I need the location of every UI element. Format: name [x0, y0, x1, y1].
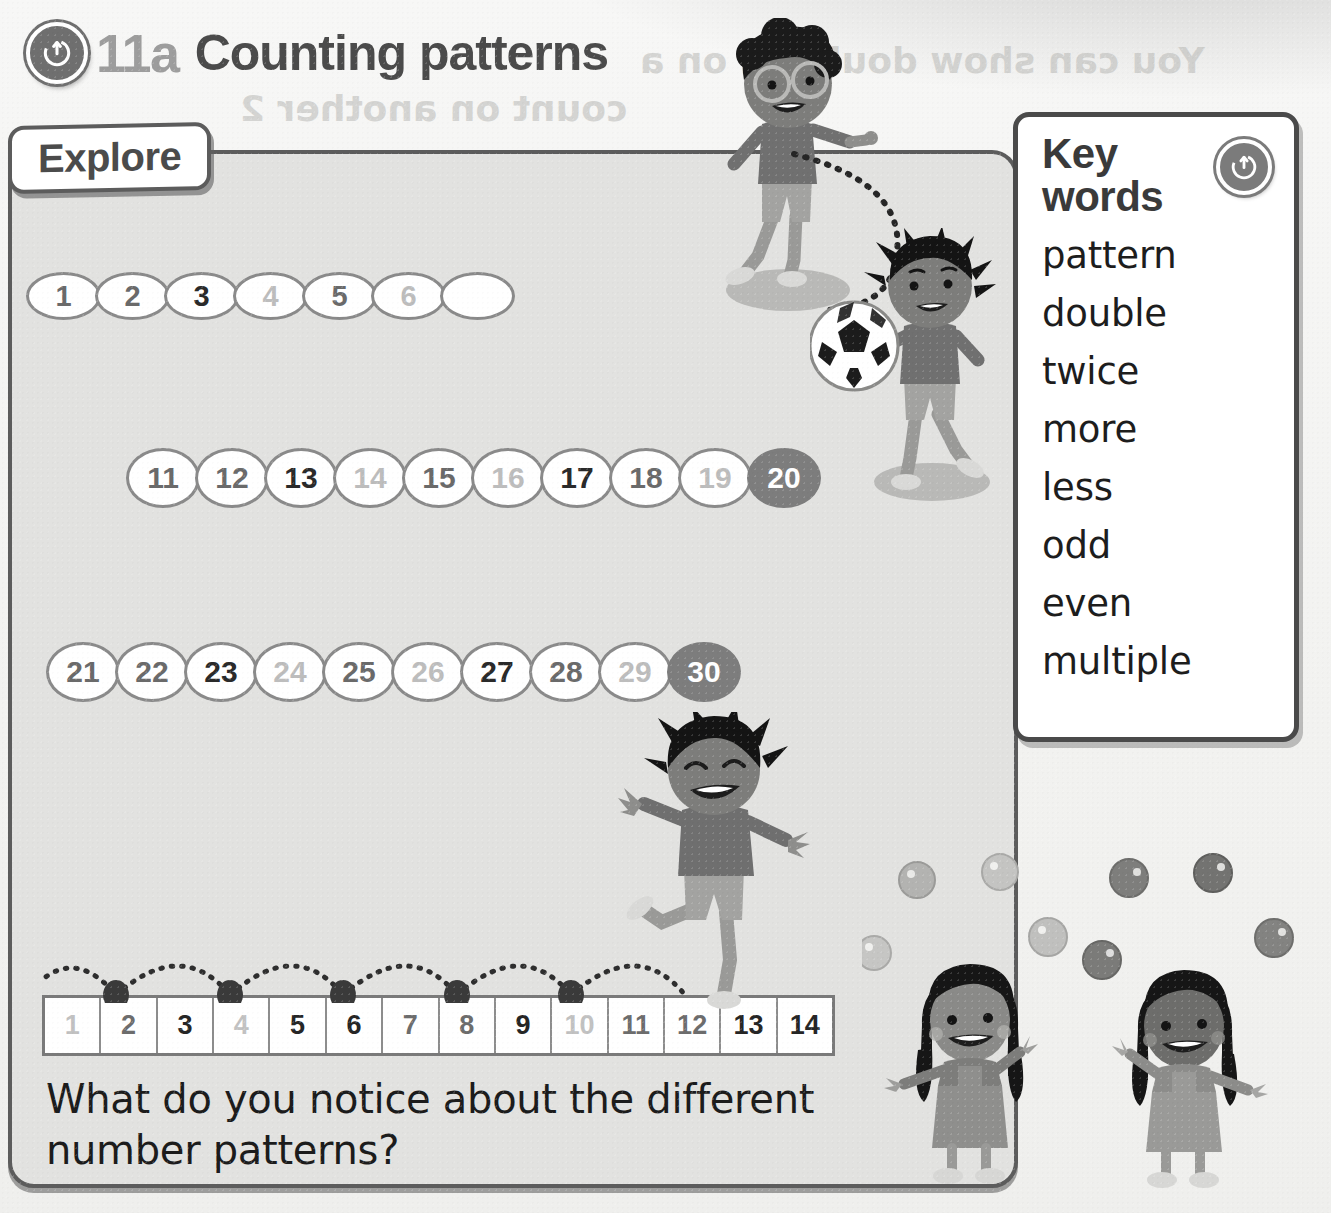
number-oval[interactable]: 6	[371, 272, 446, 320]
number-oval[interactable]: 28	[529, 642, 603, 702]
number-oval[interactable]: 11	[126, 448, 200, 508]
number-line-cell[interactable]: 14	[778, 998, 832, 1053]
number-oval[interactable]: 17	[540, 448, 614, 508]
show-through-line: count on another 2	[240, 88, 627, 129]
key-word-item: twice	[1042, 343, 1294, 401]
number-row-21-30: 21222324252627282930	[46, 642, 736, 702]
number-oval[interactable]: 21	[46, 642, 120, 702]
number-line-cell[interactable]: 11	[609, 998, 665, 1053]
number-line-cell[interactable]: 9	[496, 998, 552, 1053]
number-line-cell[interactable]: 12	[665, 998, 721, 1053]
explore-tab[interactable]: Explore	[8, 122, 211, 194]
girl-juggling-right	[1112, 970, 1268, 1188]
key-word-item: less	[1042, 459, 1294, 517]
number-oval[interactable]: 25	[322, 642, 396, 702]
number-oval[interactable]: 24	[253, 642, 327, 702]
number-oval[interactable]: 3	[164, 272, 239, 320]
number-line-cell[interactable]: 10	[552, 998, 608, 1053]
number-oval[interactable]: 29	[598, 642, 672, 702]
number-oval[interactable]: 27	[460, 642, 534, 702]
number-oval[interactable]: 22	[115, 642, 189, 702]
key-words-box: Key words patterndoubletwicemorelessodde…	[1013, 112, 1299, 742]
number-oval[interactable]: 1	[26, 272, 101, 320]
number-oval[interactable]: 23	[184, 642, 258, 702]
key-words-list: patterndoubletwicemorelessoddevenmultipl…	[1042, 227, 1294, 692]
key-word-item: multiple	[1042, 633, 1294, 691]
number-oval[interactable]: 12	[195, 448, 269, 508]
number-line-cell[interactable]: 6	[327, 998, 383, 1053]
show-through-line: You can show doubling on a	[640, 40, 1205, 81]
number-line-cell[interactable]: 5	[270, 998, 326, 1053]
number-line-cell[interactable]: 1	[45, 998, 101, 1053]
key-word-item: odd	[1042, 517, 1294, 575]
textbook-page: You can show doubling on acount on anoth…	[0, 0, 1331, 1213]
number-oval[interactable]: 19	[678, 448, 752, 508]
number-oval[interactable]: 4	[233, 272, 308, 320]
number-line-group: 1234567891011121314	[42, 995, 835, 1056]
power-up-icon	[1216, 139, 1272, 195]
key-word-item: double	[1042, 285, 1294, 343]
number-oval[interactable]: 30	[667, 642, 741, 702]
key-words-title: Key words	[1042, 133, 1202, 219]
number-line-cell[interactable]: 2	[101, 998, 157, 1053]
number-line-cell[interactable]: 3	[158, 998, 214, 1053]
number-oval[interactable]: 18	[609, 448, 683, 508]
number-oval-empty[interactable]	[440, 272, 515, 320]
number-line: 1234567891011121314	[42, 995, 835, 1056]
key-word-item: even	[1042, 575, 1294, 633]
number-row-11-20: 11121314151617181920	[126, 448, 816, 508]
number-oval[interactable]: 16	[471, 448, 545, 508]
page-header: 11a Counting patterns	[26, 22, 608, 84]
page-title: Counting patterns	[195, 28, 609, 78]
key-word-item: pattern	[1042, 227, 1294, 285]
number-row-1-6: 123456	[26, 272, 509, 320]
power-up-icon	[26, 22, 88, 84]
chapter-number: 11a	[96, 26, 179, 80]
number-line-cell[interactable]: 13	[721, 998, 777, 1053]
number-oval[interactable]: 13	[264, 448, 338, 508]
number-oval[interactable]: 26	[391, 642, 465, 702]
key-word-item: more	[1042, 401, 1294, 459]
number-oval[interactable]: 2	[95, 272, 170, 320]
number-line-cell[interactable]: 8	[440, 998, 496, 1053]
number-oval[interactable]: 14	[333, 448, 407, 508]
number-line-cell[interactable]: 7	[383, 998, 439, 1053]
number-line-cell[interactable]: 4	[214, 998, 270, 1053]
number-oval[interactable]: 5	[302, 272, 377, 320]
question-text: What do you notice about the different n…	[46, 1074, 826, 1176]
number-oval[interactable]: 15	[402, 448, 476, 508]
number-oval[interactable]: 20	[747, 448, 821, 508]
explore-tab-label: Explore	[38, 136, 181, 179]
